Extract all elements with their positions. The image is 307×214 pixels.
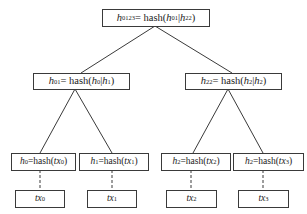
leaf-arg: tx: [124, 157, 131, 167]
tx-label: tx: [107, 194, 114, 204]
leaf-eq: =hash(: [180, 157, 206, 167]
transaction-node-3: tx3: [238, 190, 289, 208]
leaf-hash-node-2: h2=hash(tx2): [161, 153, 231, 171]
transaction-node-2: tx2: [166, 190, 217, 208]
node-arg-b: h: [102, 76, 107, 87]
node-close: ): [263, 76, 267, 87]
transaction-node-0: tx0: [15, 190, 65, 208]
leaf-hash-node-0: h0=hash(tx0): [11, 153, 76, 171]
node-eq: = hash(: [60, 76, 91, 87]
tx-label: tx: [35, 194, 42, 204]
leaf-close: ): [64, 157, 67, 167]
leaf-close: ): [289, 157, 292, 167]
transaction-node-1: tx1: [87, 190, 137, 208]
edge-root-to-h01: [81, 26, 155, 73]
leaf-close: ): [216, 157, 219, 167]
edge-h01-to-h0: [40, 89, 75, 153]
edge-h01-to-h1: [75, 89, 112, 153]
leaf-hash-node-1: h1=hash(tx1): [79, 153, 149, 171]
edge-h22-to-h2: [193, 89, 228, 153]
leaf-hash-node-3: h2=hash(tx3): [233, 153, 304, 171]
tx-label: tx: [186, 194, 193, 204]
leaf-arg: tx: [54, 157, 61, 167]
node-eq: = hash(: [212, 76, 243, 87]
edge-root-to-h22: [155, 26, 232, 73]
node-arg-b: h: [254, 76, 259, 87]
leaf-close: ): [134, 157, 137, 167]
tree-edges: [0, 0, 307, 214]
tx-label: tx: [258, 194, 265, 204]
leaf-arg: tx: [279, 157, 286, 167]
leaf-var: h: [245, 157, 250, 167]
h22-hash-node: h22= hash(h2|h2): [185, 73, 282, 90]
leaf-var: h: [20, 157, 25, 167]
leaf-eq: =hash(: [98, 157, 124, 167]
leaf-arg: tx: [206, 157, 213, 167]
root-eq: = hash(: [135, 13, 166, 24]
h01-hash-node: h01= hash(h0|h1): [33, 73, 130, 90]
edge-h22-to-h3: [228, 89, 263, 153]
leaf-eq: =hash(: [253, 157, 279, 167]
node-close: ): [111, 76, 115, 87]
leaf-eq: =hash(: [28, 157, 54, 167]
root-close: ): [192, 13, 196, 24]
root-hash-node: h0123= hash(h01|h22): [102, 9, 210, 27]
